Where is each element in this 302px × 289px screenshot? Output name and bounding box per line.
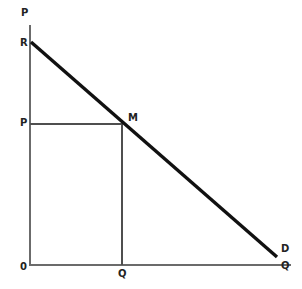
origin-label: 0 [20,262,27,272]
price-axis-label: P [21,8,28,18]
price-level-label: P [20,118,27,128]
price-intercept-label-r: R [20,38,28,48]
demand-curve-label-d: D [281,244,289,254]
demand-curve-line [31,42,277,257]
quantity-level-label: Q [118,269,127,279]
demand-curve-figure: P R P M 0 Q D Q [0,0,302,289]
quantity-axis-label: Q [281,261,290,271]
equilibrium-point-label-m: M [128,113,138,123]
diagram-canvas [0,0,302,289]
